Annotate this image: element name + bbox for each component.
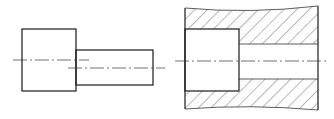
sectioned-bore-view: [175, 0, 326, 119]
through-bore: [239, 44, 319, 79]
counterbore: [186, 29, 239, 91]
technical-drawing: [0, 0, 334, 119]
stepped-pin-view: [13, 29, 165, 91]
pin-small-diameter: [76, 50, 153, 85]
